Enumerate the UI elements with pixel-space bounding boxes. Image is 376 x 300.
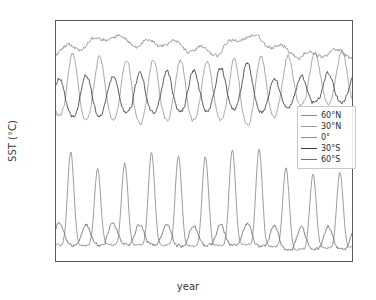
x-tick-mark (110, 261, 111, 262)
legend-item-60s[interactable]: 60°S (301, 154, 352, 165)
y-tick-mark (55, 245, 56, 246)
legend-label: 0° (321, 134, 330, 142)
legend-line-swatch (301, 159, 317, 160)
sst-line-chart-figure: 051015202530199019921994199619982000 yea… (0, 0, 376, 300)
legend-line-swatch (301, 126, 317, 127)
legend-item-60n[interactable]: 60°N (301, 110, 352, 121)
y-tick-mark (55, 174, 56, 175)
series-line-60s (56, 222, 352, 250)
x-axis-label: year (0, 281, 376, 292)
legend-label: 60°S (321, 156, 340, 164)
x-tick-mark (219, 261, 220, 262)
legend-item-30s[interactable]: 30°S (301, 143, 352, 154)
series-line-0 (56, 34, 352, 59)
x-tick-mark (273, 261, 274, 262)
y-tick-mark (55, 32, 56, 33)
y-tick-mark (55, 103, 56, 104)
y-tick-mark (55, 67, 56, 68)
legend-line-swatch (301, 115, 317, 116)
x-tick-mark (327, 261, 328, 262)
y-tick-mark (55, 138, 56, 139)
y-axis-label: SST (°C) (7, 81, 18, 201)
x-tick-mark (164, 261, 165, 262)
legend-label: 30°N (321, 123, 341, 131)
legend-label: 30°S (321, 145, 340, 153)
legend-line-swatch (301, 137, 317, 138)
legend-line-swatch (301, 148, 317, 149)
chart-legend: 60°N30°N0°30°S60°S (297, 106, 356, 169)
legend-item-0[interactable]: 0° (301, 132, 352, 143)
legend-item-30n[interactable]: 30°N (301, 121, 352, 132)
legend-label: 60°N (321, 112, 341, 120)
x-tick-mark (56, 261, 57, 262)
y-tick-mark (55, 210, 56, 211)
